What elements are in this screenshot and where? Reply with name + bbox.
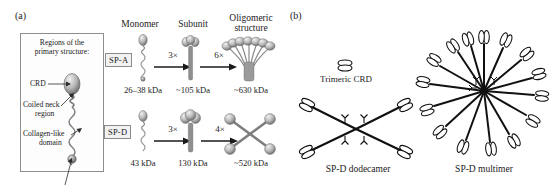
sp-a-oligomer-bouquet-glyph <box>221 36 277 82</box>
sp-d-oligomer-mass: ~520 kDa <box>218 158 284 168</box>
sp-a-monomer-glyph <box>133 34 153 82</box>
legend-label-collagen: Collagen-like domain <box>23 129 79 147</box>
panel-b-label: (b) <box>290 10 302 21</box>
pointer-n-terminal <box>65 162 71 185</box>
sp-d-subunit-mass: 130 kDa <box>163 158 223 168</box>
primary-structure-legend-box: Regions of the primary structure: <box>20 33 104 172</box>
column-header-oligomeric: Oligomeric structure <box>218 13 284 33</box>
sp-d-multimer-label: SP-D multimer <box>424 164 544 174</box>
legend-label-collagen-line1: Collagen-like <box>23 129 64 138</box>
legend-label-collagen-line2: domain <box>23 138 62 147</box>
trimeric-crd-icon <box>334 58 356 74</box>
sp-d-multimer-schematic <box>414 22 554 160</box>
pointer-n-terminal-arrowhead <box>68 158 73 163</box>
figure-root: (a) Regions of the primary structure: <box>0 0 555 185</box>
trimeric-crd-label: Trimeric CRD <box>300 74 392 84</box>
protein-label-sp-a: SP-A <box>105 53 132 67</box>
multimer-hub <box>481 88 488 95</box>
legend-label-coiled-neck-line1: Coiled neck <box>23 100 59 109</box>
sp-d-dodecamer-glyph-a <box>222 112 278 156</box>
sp-d-monomer-glyph <box>133 110 153 154</box>
panel-a-label: (a) <box>15 10 26 21</box>
legend-label-coiled-neck: Coiled neck region <box>23 100 75 118</box>
column-header-monomer: Monomer <box>110 19 170 29</box>
sp-a-oligomer-mass: ~630 kDa <box>218 85 284 95</box>
column-header-subunit: Subunit <box>163 19 223 29</box>
sp-d-dodecamer-label: SP-D dodecamer <box>300 164 416 174</box>
legend-label-coiled-neck-line2: region <box>23 109 54 118</box>
sp-d-dodecamer-schematic <box>296 96 416 158</box>
protein-label-sp-d: SP-D <box>104 125 131 139</box>
legend-label-crd: CRD <box>30 79 46 89</box>
sp-a-subunit-mass: ~105 kDa <box>163 85 223 95</box>
pointer-crd-arrowhead <box>66 82 71 87</box>
column-header-oligomeric-line2: structure <box>234 23 267 33</box>
column-header-oligomeric-line1: Oligomeric <box>229 13 272 23</box>
